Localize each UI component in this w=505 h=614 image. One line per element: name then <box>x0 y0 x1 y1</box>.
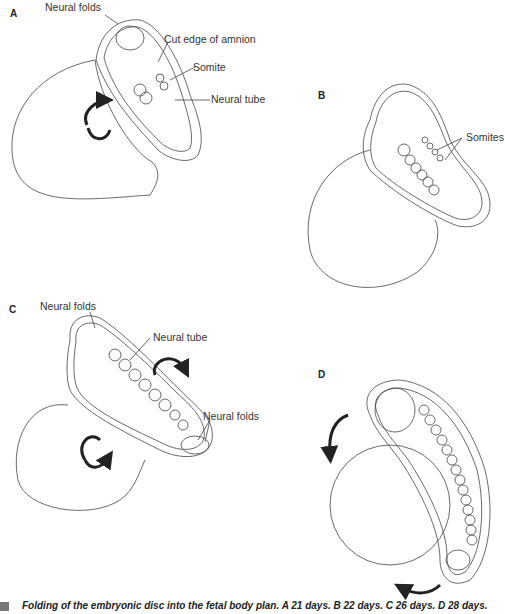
caption-marker <box>0 602 9 611</box>
label-neural-tube-a: Neural tube <box>211 93 265 105</box>
label-neural-folds-a: Neural folds <box>45 1 101 13</box>
label-neural-folds-c-right: Neural folds <box>203 410 259 422</box>
panel-letter-c: C <box>9 304 16 315</box>
figure-caption: Folding of the embryonic disc into the f… <box>0 600 505 614</box>
label-neural-tube-c: Neural tube <box>153 331 207 343</box>
panel-d-drawing <box>330 380 490 593</box>
panel-letter-b: B <box>318 90 325 101</box>
label-somite: Somite <box>193 61 226 73</box>
label-neural-folds-c-top: Neural folds <box>40 300 96 312</box>
panel-letter-a: A <box>10 8 17 19</box>
label-cut-edge-of-amnion: Cut edge of amnion <box>164 33 256 45</box>
panel-b-drawing <box>308 84 490 287</box>
caption-text: Folding of the embryonic disc into the f… <box>22 600 488 611</box>
label-somites: Somites <box>466 131 504 143</box>
panel-letter-d: D <box>318 369 325 380</box>
